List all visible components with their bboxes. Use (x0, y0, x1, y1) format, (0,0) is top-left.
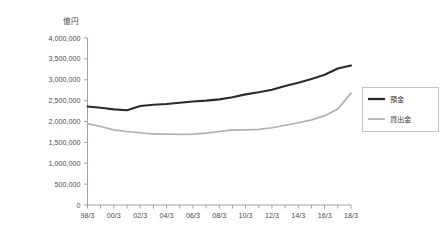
series-line-deposits (88, 66, 352, 111)
y-tick-label: 2,500,000 (49, 96, 81, 105)
y-tick-label: 2,000,000 (49, 117, 81, 126)
y-tick-label: 0 (77, 201, 81, 210)
y-axis-unit-label: 億円 (63, 16, 79, 26)
y-tick-label: 1,000,000 (49, 159, 81, 168)
y-tick-label: 1,500,000 (49, 138, 81, 147)
y-tick-label: 500,000 (55, 180, 81, 189)
x-tick-label: 02/3 (133, 211, 147, 220)
x-tick-label: 06/3 (186, 211, 200, 220)
y-axis-ticks: 0500,0001,000,0001,500,0002,000,0002,500… (49, 34, 88, 210)
y-tick-label: 3,500,000 (49, 54, 81, 63)
chart-canvas: 億円 0500,0001,000,0001,500,0002,000,0002,… (0, 0, 446, 236)
x-tick-label: 14/3 (291, 211, 305, 220)
legend-label-deposits: 預金 (390, 95, 404, 104)
x-tick-label: 00/3 (107, 211, 121, 220)
unit-label-group: 億円 (63, 16, 79, 26)
y-tick-label: 4,000,000 (49, 34, 81, 43)
legend: 預金 貸出金 (363, 88, 439, 132)
x-tick-label: 12/3 (265, 211, 279, 220)
y-tick-label: 3,000,000 (49, 75, 81, 84)
x-tick-label: 04/3 (160, 211, 174, 220)
x-tick-label: 08/3 (212, 211, 226, 220)
x-tick-label: 16/3 (318, 211, 332, 220)
x-tick-label: 98/3 (81, 211, 95, 220)
line-chart: 億円 0500,0001,000,0001,500,0002,000,0002,… (0, 0, 446, 236)
x-tick-label: 10/3 (239, 211, 253, 220)
x-axis-ticks: 98/300/302/304/306/308/310/312/314/316/3… (81, 205, 359, 220)
legend-label-loans: 貸出金 (390, 115, 411, 124)
x-tick-label: 18/3 (344, 211, 358, 220)
